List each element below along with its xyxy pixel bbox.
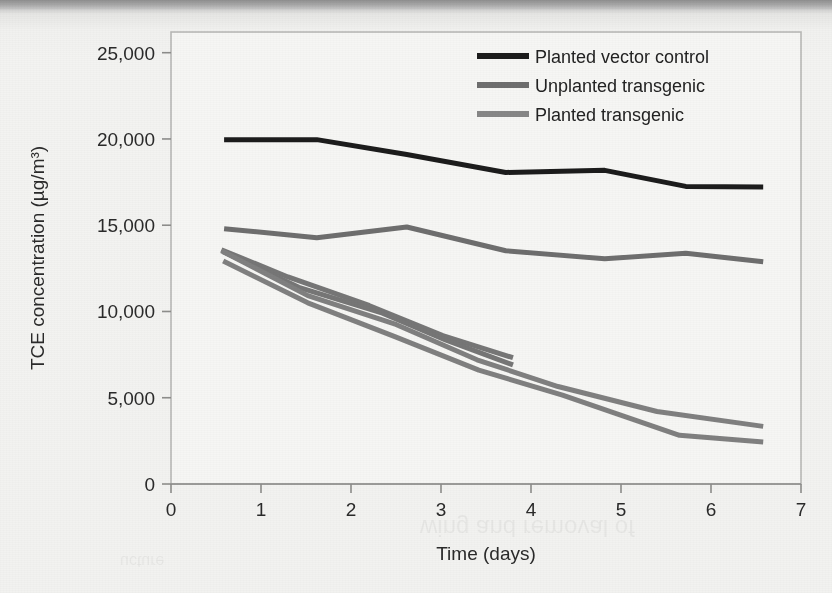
ghost-bleed-text-6: ucture: [120, 553, 165, 570]
y-axis-tick-label: 20,000: [97, 129, 155, 150]
x-axis-tick-label: 4: [526, 499, 537, 520]
y-axis-tick-label: 0: [144, 474, 155, 495]
x-axis-tick-label: 6: [706, 499, 717, 520]
y-axis-tick-label: 5,000: [107, 388, 155, 409]
x-axis-tick-label: 5: [616, 499, 627, 520]
x-axis-tick-label: 0: [166, 499, 177, 520]
tce-concentration-line-chart: and thecontrol plantshave beenreduction …: [0, 0, 832, 593]
legend-label: Unplanted transgenic: [535, 76, 705, 96]
y-axis-tick-label: 15,000: [97, 215, 155, 236]
y-axis-tick-label: 25,000: [97, 43, 155, 64]
y-axis-tick-label: 10,000: [97, 301, 155, 322]
x-axis-title: Time (days): [436, 543, 536, 564]
scanned-page: and thecontrol plantshave beenreduction …: [0, 0, 832, 593]
legend-label: Planted vector control: [535, 47, 709, 67]
x-axis-tick-label: 2: [346, 499, 357, 520]
y-axis-title: TCE concentration (µg/m³): [27, 146, 48, 370]
legend-label: Planted transgenic: [535, 105, 684, 125]
x-axis-tick-label: 3: [436, 499, 447, 520]
x-axis-tick-label: 1: [256, 499, 267, 520]
x-axis-tick-label: 7: [796, 499, 807, 520]
